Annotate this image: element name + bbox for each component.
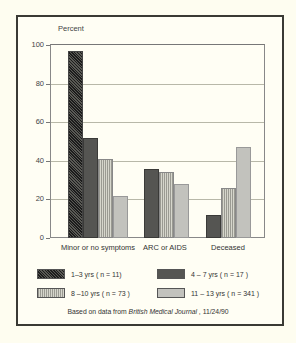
y-tick-label: 60: [24, 117, 44, 126]
source-suffix: , 11/24/90: [197, 308, 229, 315]
legend-label: 11 – 13 yrs ( n = 341 ): [191, 290, 259, 297]
y-tick-label: 80: [24, 79, 44, 88]
x-category-label: Deceased: [183, 243, 273, 252]
legend-swatch: [157, 288, 185, 298]
legend-swatch: [157, 269, 185, 279]
y-tick-label: 20: [24, 194, 44, 203]
legend-label: 4 – 7 yrs ( n = 17 ): [191, 271, 248, 278]
bar: [206, 215, 221, 238]
legend-swatch: [37, 288, 65, 298]
legend-swatch: [37, 269, 65, 279]
legend-label: 8 –10 yrs ( n = 73 ): [71, 290, 130, 297]
source-note: Based on data from British Medical Journ…: [0, 308, 296, 315]
bar: [98, 159, 113, 238]
bar: [83, 138, 98, 238]
y-tick-label: 0: [24, 233, 44, 242]
legend-item: 11 – 13 yrs ( n = 341 ): [157, 288, 259, 298]
y-axis-label: Percent: [58, 24, 84, 33]
bar: [68, 51, 83, 238]
bar: [144, 169, 159, 238]
legend-label: 1–3 yrs ( n = 11): [71, 271, 122, 278]
source-journal: British Medical Journal: [129, 308, 197, 315]
y-tick: [46, 238, 50, 239]
y-tick-label: 100: [24, 40, 44, 49]
bar: [174, 184, 189, 238]
bar: [221, 188, 236, 238]
legend-item: 8 –10 yrs ( n = 73 ): [37, 288, 130, 298]
source-prefix: Based on data from: [67, 308, 128, 315]
bar: [236, 147, 251, 238]
bar: [113, 196, 128, 238]
bar: [159, 172, 174, 238]
legend-item: 4 – 7 yrs ( n = 17 ): [157, 269, 248, 279]
legend-item: 1–3 yrs ( n = 11): [37, 269, 122, 279]
plot-area: [50, 44, 265, 238]
y-tick-label: 40: [24, 156, 44, 165]
